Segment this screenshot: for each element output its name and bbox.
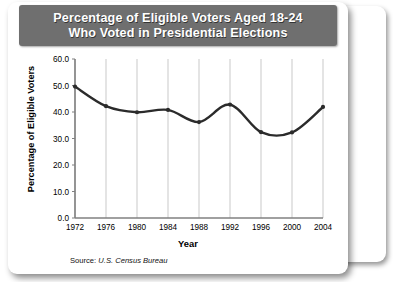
x-axis-tick-label: 2004 [314, 223, 333, 232]
y-axis-tick-label: 20.0 [53, 161, 69, 170]
y-axis-tick-label: 30.0 [53, 135, 69, 144]
data-point-marker [73, 84, 77, 88]
x-axis-tick-label: 1992 [221, 223, 240, 232]
x-axis-tick-label: 1976 [97, 223, 116, 232]
data-point-marker [290, 130, 294, 134]
chart-title-line-1: Percentage of Eligible Voters Aged 18-24 [53, 11, 303, 26]
figure-scene: Percentage of Eligible Voters Aged 18-24… [0, 0, 393, 282]
y-axis-tick-label: 40.0 [53, 108, 69, 117]
source-name: U.S. Census Bureau [98, 256, 167, 265]
data-point-marker [228, 102, 232, 106]
source-label: Source: [70, 256, 96, 265]
x-axis-tick-label: 1988 [190, 223, 209, 232]
data-point-marker [135, 110, 139, 114]
x-axis-tick-label: 1996 [252, 223, 271, 232]
source-note: Source: U.S. Census Bureau [70, 256, 168, 265]
data-point-marker [259, 130, 263, 134]
y-axis-tick-label: 0.0 [58, 214, 70, 223]
y-axis-tick-label: 50.0 [53, 82, 69, 91]
x-axis-title: Year [63, 238, 313, 249]
chart-title-line-2: Who Voted in Presidential Elections [68, 26, 287, 41]
x-axis-tick-label: 2000 [283, 223, 302, 232]
line-chart-svg: 0.010.020.030.040.050.060.01972197619801… [8, 46, 348, 246]
x-axis-tick-label: 1984 [159, 223, 178, 232]
y-axis-tick-label: 60.0 [53, 55, 69, 64]
data-point-marker [321, 105, 325, 109]
data-point-marker [166, 108, 170, 112]
x-axis-tick-label: 1980 [128, 223, 147, 232]
y-axis-tick-label: 10.0 [53, 188, 69, 197]
chart-card: Percentage of Eligible Voters Aged 18-24… [8, 2, 348, 274]
data-point-marker [197, 120, 201, 124]
chart-title-banner: Percentage of Eligible Voters Aged 18-24… [19, 5, 337, 46]
x-axis-tick-label: 1972 [66, 223, 85, 232]
chart-plot-region: Percentage of Eligible Voters 0.010.020.… [8, 46, 348, 274]
data-point-marker [104, 104, 108, 108]
